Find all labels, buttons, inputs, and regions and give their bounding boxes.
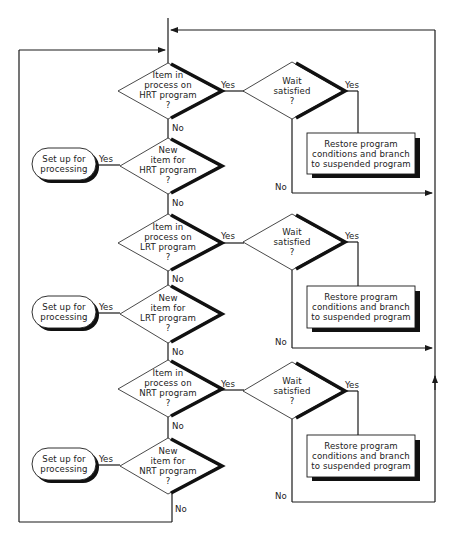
text-line: conditions and branch [307,451,415,461]
nrt-new-item-text: New item for NRT program ? [128,446,208,486]
text-line: Wait [257,227,327,237]
text-line: ? [257,247,327,257]
nrt-new-item-yes-label: Yes [99,454,113,464]
text-line: ? [128,100,208,110]
lrt-new-item-yes-label: Yes [99,302,113,312]
text-line: item for [128,155,208,165]
hrt-new-item-yes-label: Yes [99,154,113,164]
hrt-setup-text: Set up for processing [32,154,96,174]
hrt-restore-text: Restore program conditions and branch to… [307,139,415,169]
text-line: New [128,145,208,155]
nrt-in-process-yes-label: Yes [221,379,235,389]
text-line: satisfied [257,237,327,247]
nrt-new-item-no-label: No [175,504,187,514]
text-line: HRT program [128,90,208,100]
text-line: New [128,446,208,456]
text-line: Set up for [32,154,96,164]
text-line: ? [128,398,208,408]
text-line: satisfied [257,86,327,96]
nrt-setup-text: Set up for processing [32,454,96,474]
lrt-wait-yes-label: Yes [345,231,359,241]
lrt-in-process-yes-label: Yes [221,231,235,241]
text-line: processing [32,464,96,474]
nrt-wait-text: Wait satisfied ? [257,376,327,406]
lrt-restore-text: Restore program conditions and branch to… [307,292,415,322]
nrt-restore-text: Restore program conditions and branch to… [307,441,415,471]
text-line: item for [128,456,208,466]
text-line: Item in [128,70,208,80]
text-line: NRT program [128,466,208,476]
text-line: to suspended program [307,312,415,322]
text-line: conditions and branch [307,302,415,312]
hrt-wait-text: Wait satisfied ? [257,76,327,106]
text-line: New [128,293,208,303]
text-line: Restore program [307,292,415,302]
hrt-new-item-no-label: No [172,198,184,208]
text-line: Restore program [307,441,415,451]
text-line: processing [32,164,96,174]
lrt-in-process-text: Item in process on LRT program ? [128,222,208,262]
lrt-wait-no-label: No [275,337,287,347]
text-line: Set up for [32,454,96,464]
lrt-new-item-text: New item for LRT program ? [128,293,208,333]
text-line: processing [32,312,96,322]
lrt-in-process-no-label: No [172,274,184,284]
text-line: ? [128,252,208,262]
nrt-in-process-no-label: No [172,421,184,431]
text-line: Item in [128,222,208,232]
text-line: HRT program [128,165,208,175]
text-line: satisfied [257,386,327,396]
text-line: Wait [257,76,327,86]
text-line: process on [128,80,208,90]
text-line: ? [128,323,208,333]
text-line: process on [128,232,208,242]
hrt-wait-yes-label: Yes [345,80,359,90]
hrt-in-process-text: Item in process on HRT program ? [128,70,208,110]
hrt-in-process-yes-label: Yes [221,80,235,90]
hrt-wait-no-label: No [275,182,287,192]
text-line: process on [128,378,208,388]
lrt-setup-text: Set up for processing [32,302,96,322]
hrt-in-process-no-label: No [172,123,184,133]
text-line: item for [128,303,208,313]
text-line: ? [257,396,327,406]
text-line: ? [257,96,327,106]
lrt-new-item-no-label: No [172,347,184,357]
text-line: conditions and branch [307,149,415,159]
text-line: ? [128,476,208,486]
text-line: to suspended program [307,461,415,471]
hrt-new-item-text: New item for HRT program ? [128,145,208,185]
text-line: Restore program [307,139,415,149]
text-line: to suspended program [307,159,415,169]
text-line: Item in [128,368,208,378]
text-line: LRT program [128,313,208,323]
lrt-wait-text: Wait satisfied ? [257,227,327,257]
text-line: ? [128,175,208,185]
text-line: NRT program [128,388,208,398]
nrt-wait-no-label: No [275,491,287,501]
text-line: Wait [257,376,327,386]
nrt-wait-yes-label: Yes [345,380,359,390]
nrt-in-process-text: Item in process on NRT program ? [128,368,208,408]
text-line: LRT program [128,242,208,252]
text-line: Set up for [32,302,96,312]
